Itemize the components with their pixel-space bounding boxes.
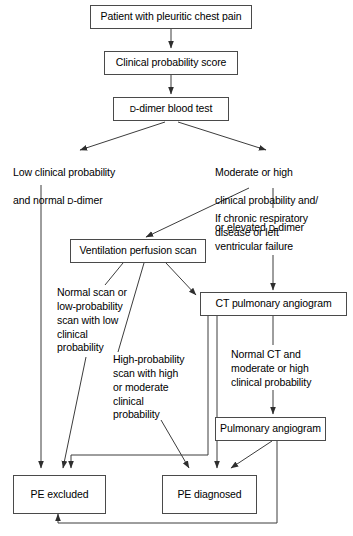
node-d-dimer-blood-test[interactable]: D-dimer blood test — [113, 97, 229, 121]
edge-high-prob-to-diagnosed — [161, 420, 189, 468]
edge-label-line: clinical probability and/ — [215, 194, 318, 208]
node-label: Pulmonary angiogram — [220, 423, 321, 435]
node-label: Ventilation perfusion scan — [79, 245, 196, 257]
node-label: PE excluded — [31, 489, 89, 501]
edge-label-low-clinical-probability: Low clinical probability and normal D-di… — [13, 152, 115, 221]
node-label: CT pulmonary angiogram — [215, 298, 331, 310]
edge-label-high-probability-scan: High-probability scan with high or moder… — [113, 353, 184, 422]
edge-vq-to-normal-scan — [105, 263, 123, 285]
edge-pa-to-diagnosed — [231, 441, 272, 468]
edge-vq-to-ctpa — [166, 263, 196, 295]
edge-label-normal-scan-low-probability: Normal scan or low-probability scan with… — [57, 286, 127, 355]
flowchart-canvas: Patient with pleuritic chest pain Clinic… — [0, 0, 353, 536]
edge-label-line: and normal D-dimer — [13, 194, 115, 208]
node-clinical-probability-score[interactable]: Clinical probability score — [104, 51, 238, 75]
node-label: D-dimer blood test — [130, 103, 213, 115]
edge-label-if-chronic-respiratory-disease: If chronic respiratory disease or left v… — [215, 212, 308, 254]
node-label: Patient with pleuritic chest pain — [101, 11, 242, 23]
node-pe-diagnosed[interactable]: PE diagnosed — [162, 475, 257, 514]
node-label: PE diagnosed — [177, 489, 241, 501]
flowchart-connectors — [0, 0, 353, 536]
node-label: Clinical probability score — [116, 57, 227, 69]
edge-ddimer-to-mod-high — [178, 122, 266, 150]
edge-label-normal-ct-moderate-or-high: Normal CT and moderate or high clinical … — [231, 348, 311, 390]
node-pe-excluded[interactable]: PE excluded — [13, 475, 106, 514]
node-ct-pulmonary-angiogram[interactable]: CT pulmonary angiogram — [200, 292, 347, 316]
node-patient-with-pleuritic-chest-pain[interactable]: Patient with pleuritic chest pain — [90, 5, 252, 29]
edge-label-line: Moderate or high — [215, 166, 318, 180]
edge-normal-scan-to-excluded — [63, 357, 86, 468]
node-pulmonary-angiogram[interactable]: Pulmonary angiogram — [215, 417, 326, 441]
edge-label-line: Low clinical probability — [13, 166, 115, 180]
node-ventilation-perfusion-scan[interactable]: Ventilation perfusion scan — [70, 239, 206, 263]
edge-ddimer-to-low-prob — [80, 122, 165, 150]
